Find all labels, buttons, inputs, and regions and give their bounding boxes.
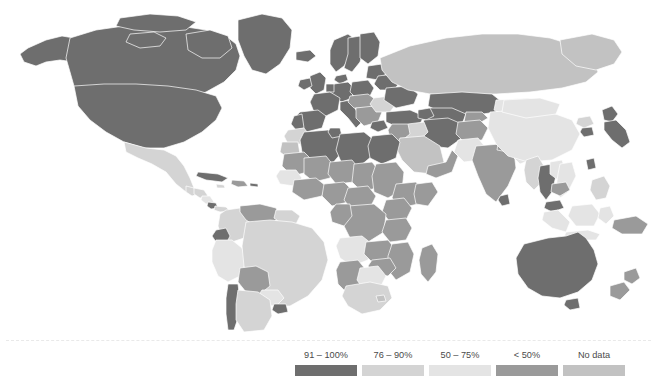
map-legend: Proportion of the population using impro… [0,344,657,387]
legend-item-swatch [295,365,357,376]
legend-item-label: 91 – 100% [295,350,357,360]
region-netherlands-belgium [326,84,334,92]
legend-item: < 50% [496,344,558,387]
region-lesotho [376,295,386,302]
world-map-svg [0,0,657,332]
legend-scale: 91 – 100%76 – 90%50 – 75%< 50%No data [295,344,625,387]
region-puerto-rico [250,183,258,187]
sanitation-world-map-figure: Proportion of the population using impro… [0,0,657,387]
legend-item-label: No data [563,350,625,360]
legend-divider [6,340,651,342]
legend-item-swatch [429,365,491,376]
legend-item-label: 76 – 90% [362,350,424,360]
legend-item-label: 50 – 75% [429,350,491,360]
legend-item-swatch [496,365,558,376]
region-taiwan [586,158,596,170]
legend-item: 50 – 75% [429,344,491,387]
legend-item: No data [563,344,625,387]
legend-item-swatch [563,365,625,376]
legend-item-label: < 50% [496,350,558,360]
legend-item: 76 – 90% [362,344,424,387]
world-map [0,0,657,332]
legend-item: 91 – 100% [295,344,357,387]
legend-item-swatch [362,365,424,376]
